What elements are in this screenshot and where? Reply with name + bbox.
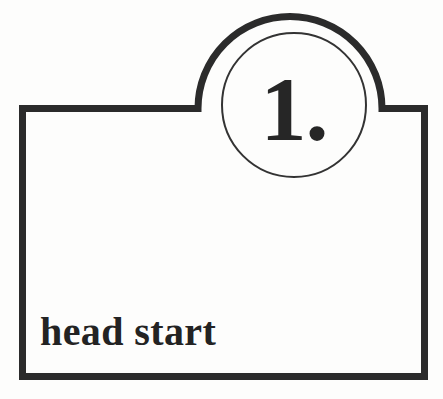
caption-label: head start (40, 309, 216, 354)
step-number-label: 1. (261, 58, 328, 160)
numbered-callout-figure: 1. head start (0, 0, 443, 399)
figure-canvas: 1. head start (0, 0, 443, 399)
